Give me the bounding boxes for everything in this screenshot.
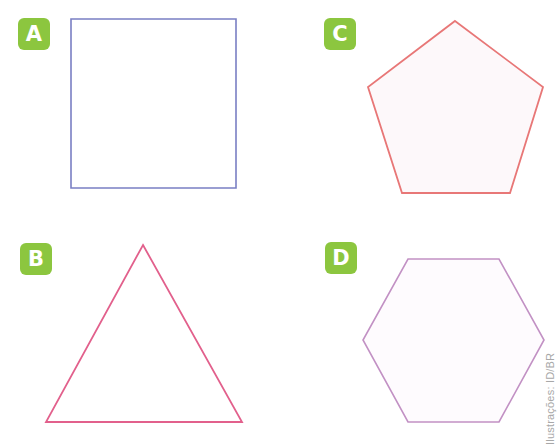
label-badge-d: D	[325, 242, 357, 274]
triangle-shape-b	[46, 245, 242, 422]
label-badge-c: C	[324, 18, 356, 50]
shapes-canvas	[0, 0, 557, 447]
illustration-credit: Ilustrações: ID/BR	[544, 353, 556, 445]
pentagon-shape-c	[368, 21, 543, 193]
label-text-c: C	[332, 22, 347, 46]
hexagon-shape-d	[363, 259, 544, 422]
square-shape-a	[71, 19, 236, 188]
label-text-b: B	[28, 247, 44, 271]
label-badge-a: A	[18, 18, 50, 50]
label-badge-b: B	[20, 243, 52, 275]
label-text-d: D	[332, 246, 349, 270]
label-text-a: A	[26, 22, 42, 46]
